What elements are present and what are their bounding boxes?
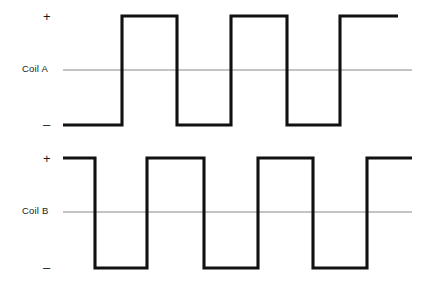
coil-a-label: Coil A bbox=[22, 64, 48, 74]
coil-b-label: Coil B bbox=[22, 206, 49, 216]
coil-a-minus-label: – bbox=[43, 118, 50, 131]
waveform-canvas bbox=[0, 0, 431, 285]
waveform-figure: + Coil A – + Coil B – bbox=[0, 0, 431, 285]
coil-b-plus-label: + bbox=[43, 152, 51, 165]
coil-a-plus-label: + bbox=[43, 10, 51, 23]
coil-b-minus-label: – bbox=[43, 261, 50, 274]
coil-b-waveform-trace bbox=[63, 158, 412, 268]
